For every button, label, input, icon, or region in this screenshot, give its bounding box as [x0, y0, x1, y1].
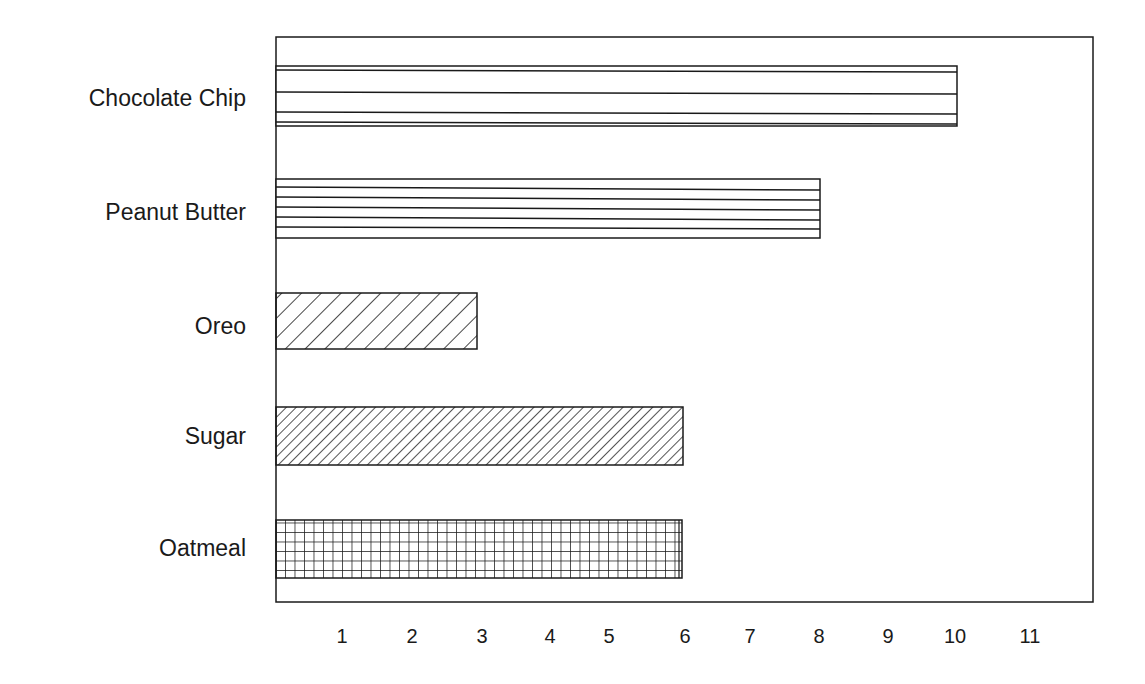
- category-label-oreo: Oreo: [195, 313, 246, 339]
- bar-chocolate-chip: [276, 66, 957, 126]
- x-tick-9: 9: [882, 625, 893, 647]
- x-tick-6: 6: [679, 625, 690, 647]
- x-axis-ticks: 1 2 3 4 5 6 7 8 9 10 11: [336, 625, 1040, 647]
- category-label-sugar: Sugar: [185, 423, 247, 449]
- bar-oreo: [276, 293, 477, 349]
- bar-peanut-butter: [276, 179, 820, 238]
- bar-chart: Chocolate Chip Peanut Butter Oreo Sugar …: [0, 0, 1145, 684]
- bar-oatmeal: [276, 520, 682, 578]
- x-tick-1: 1: [336, 625, 347, 647]
- category-label-oatmeal: Oatmeal: [159, 535, 246, 561]
- x-tick-11: 11: [1020, 625, 1041, 647]
- x-tick-8: 8: [813, 625, 824, 647]
- bar-sugar: [276, 407, 683, 465]
- category-label-chocolate-chip: Chocolate Chip: [89, 85, 246, 111]
- x-tick-7: 7: [744, 625, 755, 647]
- x-tick-5: 5: [603, 625, 614, 647]
- x-tick-10: 10: [944, 625, 966, 647]
- x-tick-2: 2: [406, 625, 417, 647]
- x-tick-3: 3: [476, 625, 487, 647]
- x-tick-4: 4: [544, 625, 555, 647]
- category-label-peanut-butter: Peanut Butter: [105, 199, 246, 225]
